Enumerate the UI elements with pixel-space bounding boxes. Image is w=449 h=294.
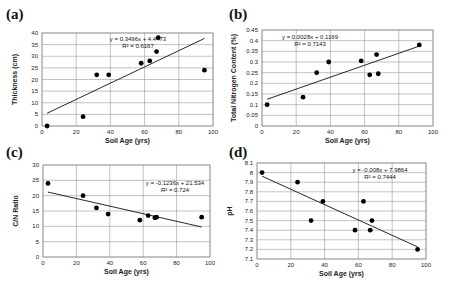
x-tick-label: 40 [107, 129, 114, 135]
y-tick-label: 7.6 [245, 208, 254, 214]
y-tick-label: 8.1 [245, 160, 254, 166]
x-tick-label: 80 [395, 129, 402, 135]
y-tick-label: 0.2 [250, 80, 259, 86]
scatter-charts-figure: 0510152025303540020406080100Soil Age (yr… [0, 0, 449, 294]
data-point [146, 213, 151, 218]
x-tick-label: 60 [361, 129, 368, 135]
y-tick-label: 20 [32, 193, 39, 199]
data-point [353, 228, 358, 233]
y-tick-label: 0 [35, 123, 39, 129]
y-tick-label: 0.15 [246, 91, 258, 97]
x-tick-label: 100 [428, 129, 439, 135]
chart-panel-d: 7.17.27.37.47.57.67.77.87.988.1020406080… [226, 160, 432, 278]
y-tick-label: 10 [31, 100, 38, 106]
x-tick-label: 20 [287, 262, 294, 268]
data-point [147, 59, 152, 64]
data-point [321, 199, 326, 204]
data-point [45, 124, 50, 129]
y-tick-label: 5 [36, 239, 40, 245]
data-point [309, 218, 314, 223]
x-tick-label: 20 [293, 129, 300, 135]
data-point [81, 193, 86, 198]
data-point [295, 180, 300, 185]
data-point [137, 218, 142, 223]
data-point [260, 170, 265, 175]
y-tick-label: 7.2 [245, 246, 254, 252]
y-tick-label: 25 [31, 65, 38, 71]
data-point [106, 72, 111, 77]
y-tick-label: 7.3 [245, 237, 254, 243]
chart-panel-a: 0510152025303540020406080100Soil Age (yr… [11, 30, 219, 145]
y-axis-title: Thickness (cm) [11, 54, 19, 105]
y-tick-label: 0 [255, 123, 259, 129]
trendline-equation: y = 0.0028x + 0.1169 [282, 34, 339, 40]
x-tick-label: 100 [208, 129, 219, 135]
y-tick-label: 0.1 [250, 102, 259, 108]
r-squared-label: R² = 0.7143 [294, 41, 326, 47]
r-squared-label: R² = 0.724 [161, 187, 190, 193]
x-tick-label: 100 [421, 262, 432, 268]
plot-area [262, 30, 433, 126]
data-point [361, 199, 366, 204]
data-point [154, 49, 159, 54]
data-point [314, 70, 319, 75]
trendline [48, 192, 202, 227]
data-point [94, 72, 99, 77]
chart-panel-c: 051015202530020406080100Soil Age (yrs)C/… [12, 162, 216, 276]
trendline-equation: y = 0.3496x + 4.4473 [110, 36, 167, 42]
data-point [359, 59, 364, 64]
x-tick-label: 20 [73, 129, 80, 135]
x-tick-label: 60 [355, 262, 362, 268]
y-tick-label: 20 [31, 77, 38, 83]
y-tick-label: 7.4 [245, 227, 254, 233]
x-axis-title: Soil Age (yrs) [105, 137, 150, 145]
y-axis-title: Total Nitrogen Content (%) [230, 34, 238, 122]
y-tick-label: 0.05 [246, 112, 258, 118]
y-tick-label: 0.35 [246, 48, 258, 54]
data-point [367, 72, 372, 77]
data-point [376, 71, 381, 76]
y-tick-label: 5 [35, 111, 39, 117]
data-point [417, 43, 422, 48]
x-tick-label: 0 [260, 129, 264, 135]
x-tick-label: 80 [173, 260, 180, 266]
y-tick-label: 0 [36, 254, 40, 260]
data-point [202, 68, 207, 73]
y-tick-label: 0.3 [250, 59, 259, 65]
x-tick-label: 60 [140, 260, 147, 266]
data-point [139, 61, 144, 66]
r-squared-label: R² = 0.6167 [122, 43, 154, 49]
x-tick-label: 80 [175, 129, 182, 135]
y-tick-label: 10 [32, 223, 39, 229]
chart-panel-b: 00.050.10.150.20.250.30.350.40.450204060… [230, 27, 439, 145]
data-point [326, 60, 331, 65]
y-tick-label: 7.5 [245, 218, 254, 224]
x-tick-label: 0 [41, 260, 45, 266]
x-tick-label: 100 [205, 260, 216, 266]
y-tick-label: 30 [32, 162, 39, 168]
y-tick-label: 35 [31, 42, 38, 48]
data-point [301, 95, 306, 100]
data-point [368, 228, 373, 233]
x-tick-label: 80 [389, 262, 396, 268]
y-tick-label: 15 [31, 88, 38, 94]
trendline-equation: y = -0.1236x + 21.534 [146, 180, 205, 186]
y-tick-label: 7.1 [245, 256, 254, 262]
data-point [265, 102, 270, 107]
y-tick-label: 40 [31, 30, 38, 36]
gridlines [43, 165, 210, 257]
x-tick-label: 40 [106, 260, 113, 266]
y-tick-label: 0.4 [250, 38, 259, 44]
x-tick-label: 60 [141, 129, 148, 135]
y-axis-title: pH [226, 206, 234, 215]
x-axis-title: Soil Age (yrs) [104, 268, 149, 276]
trendline-equation: y = -0.008x + 7.9864 [352, 167, 408, 173]
y-tick-label: 7.8 [245, 189, 254, 195]
x-tick-label: 40 [327, 129, 334, 135]
x-tick-label: 0 [40, 129, 44, 135]
x-axis-title: Soil Age (yrs) [325, 137, 370, 145]
x-axis-title: Soil Age (yrs) [319, 270, 364, 278]
data-point [199, 215, 204, 220]
data-point [106, 212, 111, 217]
y-tick-label: 0.45 [246, 27, 258, 33]
